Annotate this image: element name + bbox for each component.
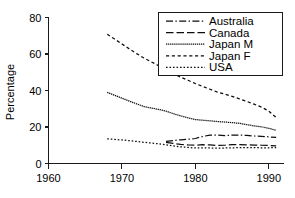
legend-label-canada: Canada bbox=[209, 27, 250, 39]
series-line-usa bbox=[107, 139, 276, 148]
x-tick-label: 1980 bbox=[183, 172, 207, 184]
legend-label-japan-f: Japan F bbox=[209, 50, 251, 62]
y-axis-title: Percentage bbox=[4, 64, 16, 120]
x-axis-tick-labels: 1960197019801990 bbox=[36, 172, 281, 184]
y-tick-label: 0 bbox=[35, 158, 41, 170]
x-axis-ticks bbox=[49, 164, 269, 169]
y-tick-label: 40 bbox=[29, 85, 41, 97]
chart-legend: AustraliaCanadaJapan MJapan FUSA bbox=[159, 13, 283, 76]
y-axis-ticks bbox=[45, 18, 49, 164]
series-line-australia bbox=[166, 135, 276, 141]
x-tick-label: 1960 bbox=[36, 172, 60, 184]
legend-label-usa: USA bbox=[209, 61, 233, 73]
chart-svg: 020406080 1960197019801990 Percentage Au… bbox=[0, 0, 295, 198]
series-line-canada bbox=[166, 142, 276, 145]
chart-figure: 020406080 1960197019801990 Percentage Au… bbox=[0, 0, 295, 198]
series-line-japan-m bbox=[107, 92, 276, 130]
y-tick-label: 80 bbox=[29, 12, 41, 24]
y-axis-tick-labels: 020406080 bbox=[29, 12, 41, 170]
y-tick-label: 20 bbox=[29, 121, 41, 133]
legend-label-japan-m: Japan M bbox=[209, 38, 253, 50]
y-tick-label: 60 bbox=[29, 48, 41, 60]
x-tick-label: 1990 bbox=[257, 172, 281, 184]
x-tick-label: 1970 bbox=[110, 172, 134, 184]
legend-label-australia: Australia bbox=[209, 15, 254, 27]
